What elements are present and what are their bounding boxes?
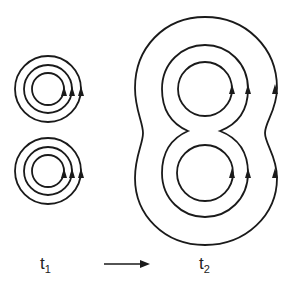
- label-t2: t2: [199, 254, 210, 275]
- label-t1: t1: [40, 254, 51, 275]
- diagram-canvas: t1 t2: [0, 0, 290, 285]
- field-lines-diagram: [0, 0, 290, 285]
- left-bottom-loops: [15, 138, 81, 204]
- left-top-loops: [15, 56, 81, 122]
- direction-arrowheads: [61, 84, 278, 178]
- right-middle-figure-eight: [162, 45, 248, 217]
- right-outer-peanut: [135, 17, 277, 245]
- time-arrow-icon: [104, 260, 150, 268]
